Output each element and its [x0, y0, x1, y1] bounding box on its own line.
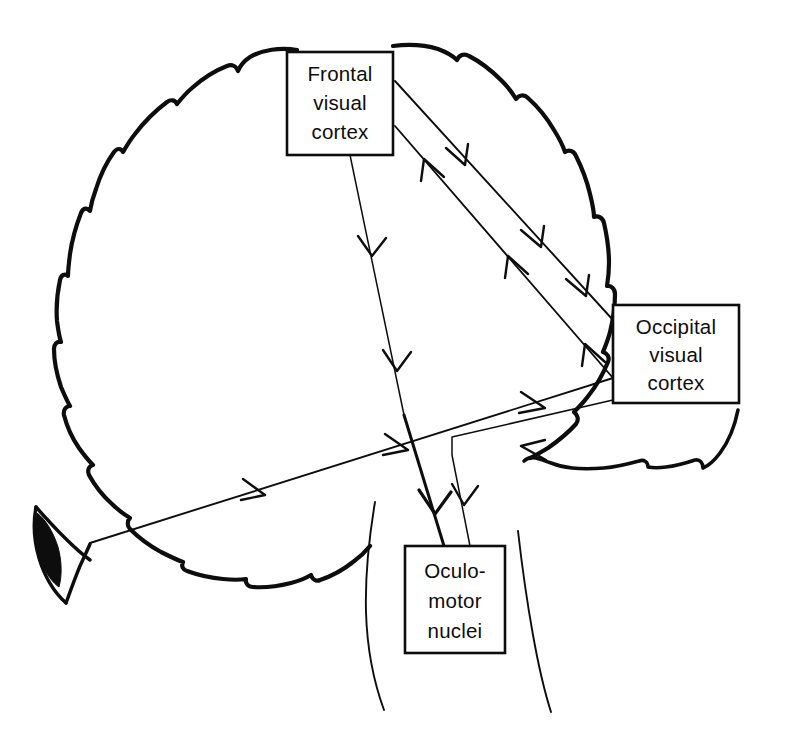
frontal-visual-cortex-label-line-1: Frontal	[307, 62, 372, 85]
occipital-visual-cortex-label-line-1: Occipital	[636, 315, 716, 338]
oculomotor-nuclei-label-line-2: motor	[428, 589, 481, 612]
node-frontal-visual-cortex[interactable]: Frontal visual cortex	[287, 52, 393, 155]
occipital-visual-cortex-label-line-2: visual	[649, 343, 703, 366]
oculomotor-nuclei-label-line-3: nuclei	[428, 619, 483, 642]
node-occipital-visual-cortex[interactable]: Occipital visual cortex	[613, 305, 739, 403]
occipital-visual-cortex-label-line-3: cortex	[647, 371, 705, 394]
frontal-visual-cortex-label-line-2: visual	[313, 91, 367, 114]
diagram-canvas: Frontal visual cortex Occipital visual c…	[0, 0, 789, 737]
node-oculomotor-nuclei[interactable]: Oculo- motor nuclei	[405, 546, 505, 653]
visual-pathway-diagram: Frontal visual cortex Occipital visual c…	[0, 0, 789, 737]
frontal-visual-cortex-label-line-3: cortex	[311, 120, 369, 143]
oculomotor-nuclei-label-line-1: Oculo-	[424, 559, 486, 582]
